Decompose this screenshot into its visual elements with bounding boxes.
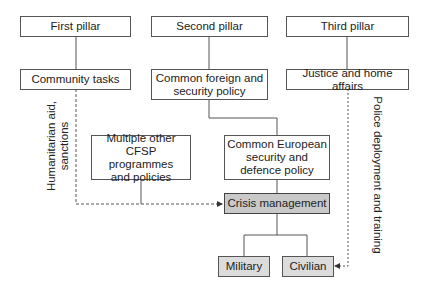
community-tasks-box: Community tasks xyxy=(20,69,131,90)
cfsp-box: Common foreign and security policy xyxy=(151,69,268,100)
edge-cfsp-to-cesdp xyxy=(209,99,277,135)
multiple-other-cfsp-box: Multiple other CFSP programmes and polic… xyxy=(91,135,191,180)
cesdp-box: Common European security and defence pol… xyxy=(224,135,330,180)
humanitarian-label: Humanitarian aid, sanctions xyxy=(45,91,73,201)
crisis-management-box: Crisis management xyxy=(224,193,330,214)
third-pillar-box: Third pillar xyxy=(286,16,409,37)
first-pillar-box: First pillar xyxy=(20,16,131,37)
edge-crisis-to-outcomes xyxy=(244,235,307,256)
justice-home-affairs-box: Justice and home affairs xyxy=(286,69,409,90)
edge-justice-to-civilian xyxy=(335,89,348,266)
military-box: Military xyxy=(218,256,270,277)
civilian-box: Civilian xyxy=(282,256,334,277)
police-label: Police deployment and training xyxy=(370,90,384,260)
second-pillar-box: Second pillar xyxy=(151,16,268,37)
